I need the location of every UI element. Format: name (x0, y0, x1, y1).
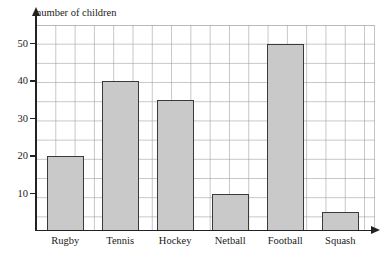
y-axis-line (35, 14, 37, 231)
y-label-30: 30 (4, 113, 28, 124)
x-axis-line (35, 230, 372, 232)
x-label-football: Football (268, 235, 303, 246)
y-tick-10 (30, 193, 35, 194)
plot-area (36, 25, 375, 231)
bar-netball (212, 194, 249, 231)
y-axis-title: number of children (36, 7, 116, 18)
x-label-rugby: Rugby (51, 235, 79, 246)
y-label-20: 20 (4, 151, 28, 162)
y-tick-20 (30, 155, 35, 156)
bar-football (267, 44, 304, 231)
grid-lines (36, 25, 375, 231)
x-label-squash: Squash (325, 235, 355, 246)
bar-chart: number of children 1020304050 RugbyTenni… (0, 0, 387, 255)
y-label-10: 10 (4, 188, 28, 199)
x-label-netball: Netball (215, 235, 246, 246)
x-axis-arrow-icon (371, 226, 380, 234)
y-label-50: 50 (4, 38, 28, 49)
bar-hockey (157, 100, 194, 231)
y-label-40: 40 (4, 76, 28, 87)
x-label-hockey: Hockey (159, 235, 192, 246)
x-label-tennis: Tennis (106, 235, 134, 246)
bar-tennis (102, 81, 139, 231)
bar-rugby (47, 156, 84, 231)
y-tick-30 (30, 118, 35, 119)
bar-squash (322, 212, 359, 231)
y-axis-tick-labels: 1020304050 (0, 0, 28, 255)
y-tick-40 (30, 80, 35, 81)
y-tick-50 (30, 43, 35, 44)
y-axis-arrow-icon (32, 7, 40, 16)
